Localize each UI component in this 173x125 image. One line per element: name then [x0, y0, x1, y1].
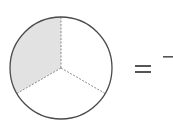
fraction-diagram: [0, 0, 173, 125]
equals-sign: [135, 65, 151, 73]
fraction-bar: [163, 56, 173, 58]
